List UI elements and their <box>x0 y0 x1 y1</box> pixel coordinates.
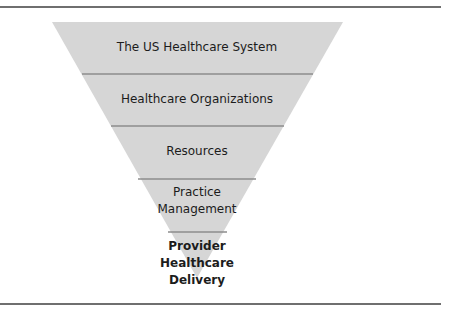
level-4-line-2: Management <box>97 201 297 218</box>
level-4-label: Practice Management <box>97 184 297 218</box>
level-5-label: Provider Healthcare Delivery <box>97 238 297 289</box>
level-4-line-1: Practice <box>97 184 297 201</box>
bottom-rule <box>0 303 441 305</box>
level-5-line-1: Provider <box>97 238 297 255</box>
level-5-line-3: Delivery <box>97 272 297 289</box>
level-3-line-1: Resources <box>97 143 297 160</box>
level-2-label: Healthcare Organizations <box>97 91 297 108</box>
level-5-line-2: Healthcare <box>97 255 297 272</box>
level-1-line-1: The US Healthcare System <box>97 39 297 56</box>
level-2-line-1: Healthcare Organizations <box>97 91 297 108</box>
level-1-label: The US Healthcare System <box>97 39 297 56</box>
level-3-label: Resources <box>97 143 297 160</box>
